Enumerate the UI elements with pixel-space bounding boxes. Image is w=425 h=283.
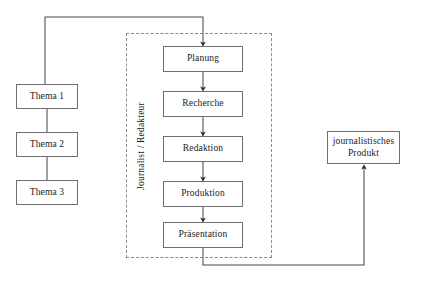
node-thema-3[interactable]: Thema 3 <box>16 180 78 205</box>
node-produktion[interactable]: Produktion <box>163 181 243 207</box>
node-label: Redaktion <box>181 143 225 154</box>
node-label: Thema 2 <box>28 139 67 150</box>
swimlane-label: Journalist / Redakteur <box>133 33 147 258</box>
node-redaktion[interactable]: Redaktion <box>163 136 243 162</box>
node-label: Präsentation <box>177 229 230 240</box>
node-journalistisches-produkt[interactable]: journalistischesProdukt <box>327 131 400 164</box>
node-thema-2[interactable]: Thema 2 <box>16 132 78 157</box>
node-label: Thema 3 <box>28 187 67 198</box>
node-thema-1[interactable]: Thema 1 <box>16 84 78 109</box>
node-praesentation[interactable]: Präsentation <box>163 222 243 248</box>
diagram-canvas: Journalist / Redakteur Thema 1Thema 2The… <box>0 0 425 283</box>
node-recherche[interactable]: Recherche <box>163 91 243 117</box>
node-label: Recherche <box>180 98 225 109</box>
node-planung[interactable]: Planung <box>163 46 243 72</box>
node-label: Thema 1 <box>28 91 67 102</box>
node-label: Planung <box>185 53 221 64</box>
node-label-multiline: journalistischesProdukt <box>329 136 399 158</box>
node-label: Produktion <box>179 188 227 199</box>
output-label-line-1: journalistisches <box>331 136 397 147</box>
output-label-line-2: Produkt <box>331 148 397 159</box>
